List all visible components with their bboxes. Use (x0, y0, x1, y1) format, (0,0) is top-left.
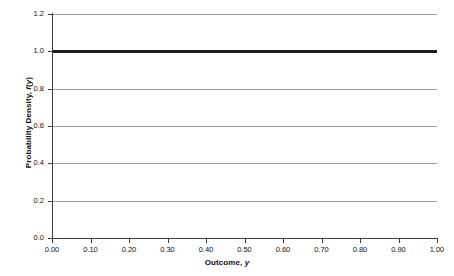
x-axis-title-text: Outcome, (205, 258, 245, 267)
x-tick-label-0.90: 0.90 (384, 245, 414, 254)
x-tick-label-0.40: 0.40 (191, 245, 221, 254)
x-tick-mark-0.70 (322, 239, 323, 243)
y-axis-title-paren-open: ( (24, 84, 33, 87)
series-line-uniform-density (52, 50, 437, 53)
x-tick-label-0.50: 0.50 (230, 245, 260, 254)
gridline-0.8 (52, 89, 437, 90)
gridline-0.2 (52, 201, 437, 202)
x-tick-mark-0.40 (206, 239, 207, 243)
y-tick-mark-0.6 (48, 126, 52, 127)
x-tick-label-0.30: 0.30 (153, 245, 183, 254)
gridline-0.6 (52, 126, 437, 127)
y-tick-mark-1.0 (48, 51, 52, 52)
y-tick-mark-1.2 (48, 14, 52, 15)
x-tick-mark-0.80 (360, 239, 361, 243)
x-tick-label-0.70: 0.70 (307, 245, 337, 254)
y-axis-title-paren-close: ) (24, 77, 33, 80)
x-tick-label-0.60: 0.60 (268, 245, 298, 254)
plot-area (52, 14, 437, 238)
x-axis-title: Outcome, y (0, 258, 454, 267)
gridline-1.2 (52, 14, 437, 15)
y-axis-line (52, 13, 53, 239)
x-tick-mark-0.50 (245, 239, 246, 243)
x-tick-label-0.20: 0.20 (114, 245, 144, 254)
y-axis-title-variable-f: f (24, 87, 33, 90)
x-tick-label-0.10: 0.10 (76, 245, 106, 254)
y-tick-mark-0.8 (48, 89, 52, 90)
x-tick-label-1.00: 1.00 (422, 245, 452, 254)
y-tick-label-1.2: 1.2 (20, 10, 44, 18)
x-tick-mark-0.90 (399, 239, 400, 243)
y-axis-title: Probability Density, f(y) (24, 33, 33, 213)
x-tick-mark-1.00 (437, 239, 438, 243)
x-tick-mark-0.20 (129, 239, 130, 243)
x-tick-label-0.80: 0.80 (345, 245, 375, 254)
y-axis-title-text: Probability Density, (24, 90, 33, 168)
x-tick-mark-0.30 (168, 239, 169, 243)
y-axis-title-variable-y: y (24, 80, 33, 85)
x-axis-title-variable: y (245, 258, 250, 267)
x-tick-mark-0.00 (52, 239, 53, 243)
y-tick-mark-0.2 (48, 201, 52, 202)
x-tick-mark-0.10 (91, 239, 92, 243)
y-tick-label-0.0: 0.0 (20, 234, 44, 242)
x-tick-label-0.00: 0.00 (37, 245, 67, 254)
y-tick-mark-0.4 (48, 163, 52, 164)
x-tick-mark-0.60 (283, 239, 284, 243)
chart-figure: 1.2 1.0 0.8 0.6 0.4 0.2 0.0 0.00 0.10 0.… (0, 0, 454, 276)
gridline-0.4 (52, 163, 437, 164)
